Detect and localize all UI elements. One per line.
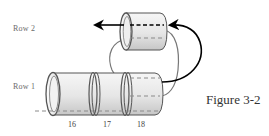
cylinder-label-18: 18	[137, 120, 145, 129]
row-2-label: Row 2	[13, 24, 35, 33]
cylinder-label-16: 16	[68, 120, 76, 129]
figure-caption: Figure 3-2	[206, 92, 261, 108]
curved-return-arrow	[162, 25, 201, 82]
row2-cylinder	[120, 13, 167, 50]
row-1-label: Row 1	[13, 82, 35, 91]
row1-cylinders	[35, 73, 163, 116]
figure-3-2-diagram: Row 2 Row 1 16 17 18 Figure 3-2	[0, 0, 269, 136]
cylinder-stitch-diagram	[0, 0, 269, 136]
cylinder-label-17: 17	[103, 120, 111, 129]
